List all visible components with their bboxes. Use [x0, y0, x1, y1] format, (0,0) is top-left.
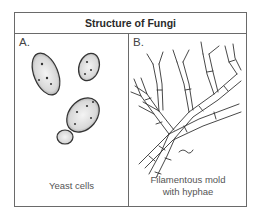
caption-yeast: Yeast cells: [15, 180, 128, 192]
panel-mold: B.: [129, 34, 247, 207]
caption-mold-line1: Filamentous mold: [129, 174, 247, 186]
caption-mold: Filamentous mold with hyphae: [129, 174, 247, 198]
figure-title: Structure of Fungi: [15, 13, 246, 34]
panel-yeast: A.: [15, 34, 129, 207]
yeast-cell-large: [27, 49, 66, 99]
caption-mold-line2: with hyphae: [129, 186, 247, 198]
yeast-bud: [57, 130, 73, 144]
figure-frame: Structure of Fungi A.: [14, 12, 247, 207]
yeast-cell-oval: [75, 51, 103, 84]
